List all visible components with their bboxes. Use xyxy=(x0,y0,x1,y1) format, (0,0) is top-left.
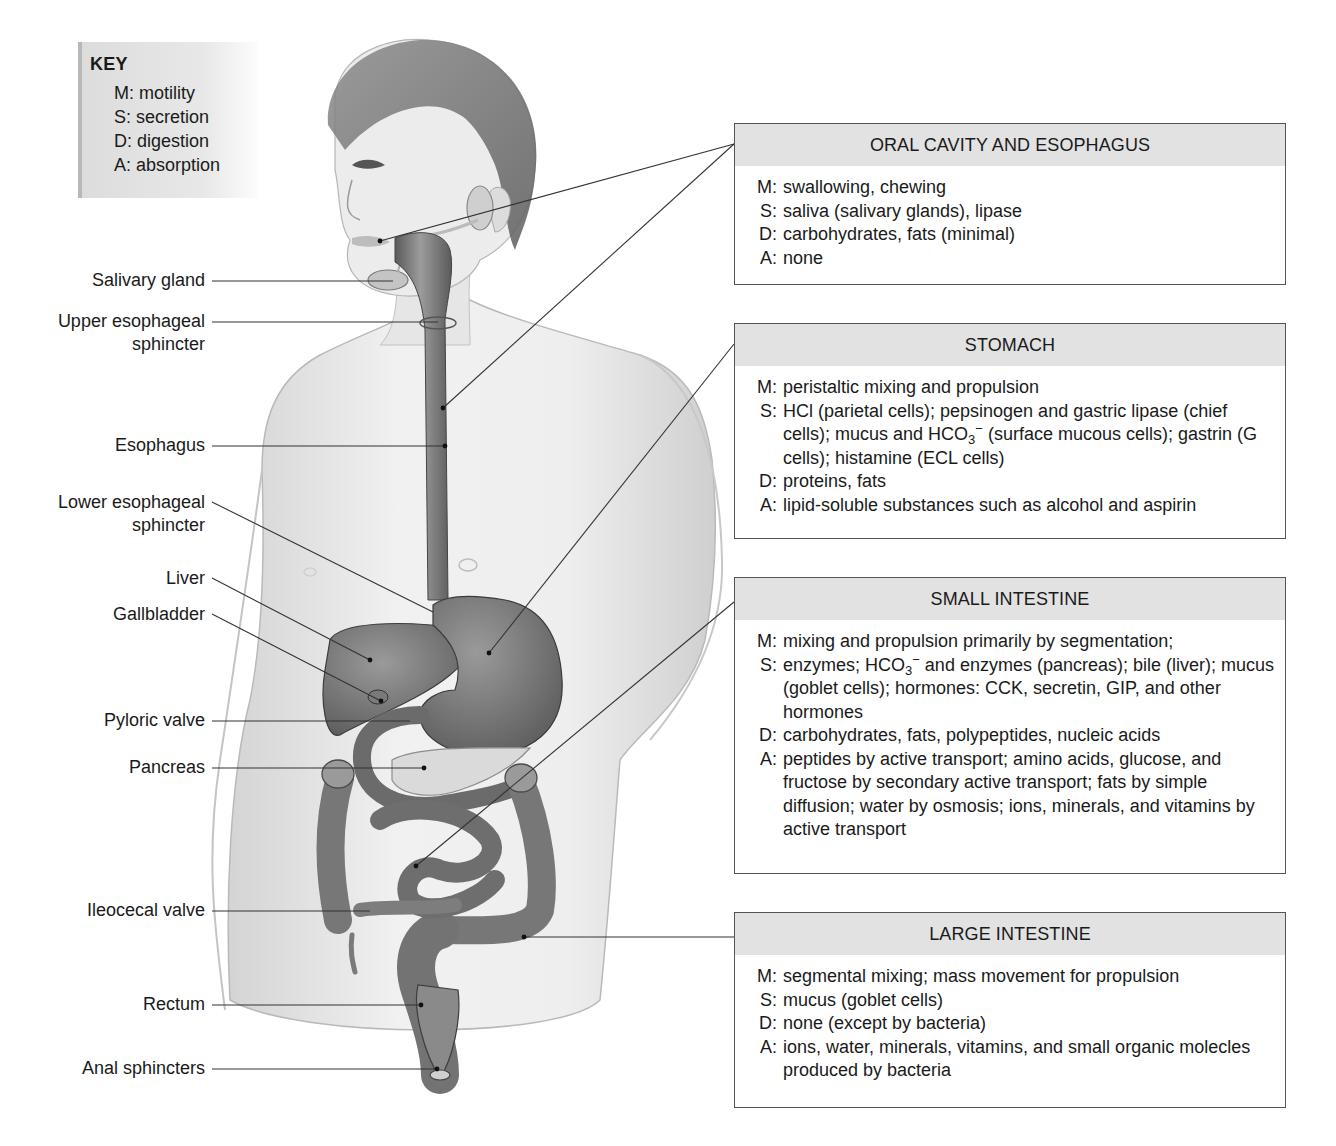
row-text: none (except by bacteria) xyxy=(783,1012,1285,1036)
row-secretion: S:HCl (parietal cells); pepsinogen and g… xyxy=(745,400,1285,471)
code-d: D: xyxy=(745,724,783,748)
code-d: D: xyxy=(745,1012,783,1036)
code-a: A: xyxy=(745,748,783,842)
row-digestion: D:carbohydrates, fats (minimal) xyxy=(745,223,1285,247)
row-motility: M:swallowing, chewing xyxy=(745,176,1285,200)
label-line: sphincter xyxy=(58,514,205,537)
box-stomach: STOMACH M:peristaltic mixing and propuls… xyxy=(734,323,1286,539)
box-title: LARGE INTESTINE xyxy=(735,913,1285,955)
label-pancreas: Pancreas xyxy=(129,756,205,779)
code-s: S: xyxy=(745,200,783,224)
row-text: proteins, fats xyxy=(783,470,1285,494)
row-motility: M:segmental mixing; mass movement for pr… xyxy=(745,965,1285,989)
label-anal-sphincters: Anal sphincters xyxy=(82,1057,205,1080)
row-digestion: D:carbohydrates, fats, polypeptides, nuc… xyxy=(745,724,1285,748)
row-absorption: A:peptides by active transport; amino ac… xyxy=(745,748,1285,842)
label-line: Upper esophageal xyxy=(58,310,205,333)
row-text: enzymes; HCO3− and enzymes (pancreas); b… xyxy=(783,654,1285,725)
code-s: S: xyxy=(745,989,783,1013)
box-title: SMALL INTESTINE xyxy=(735,578,1285,620)
row-digestion: D:none (except by bacteria) xyxy=(745,1012,1285,1036)
row-text: ions, water, minerals, vitamins, and sma… xyxy=(783,1036,1285,1083)
row-text: none xyxy=(783,247,1285,271)
key-item-secretion: S: secretion xyxy=(90,105,258,129)
key-item-digestion: D: digestion xyxy=(90,129,258,153)
box-large-intestine: LARGE INTESTINE M:segmental mixing; mass… xyxy=(734,912,1286,1108)
code-m: M: xyxy=(745,176,783,200)
label-esophagus: Esophagus xyxy=(115,434,205,457)
row-secretion: S:saliva (salivary glands), lipase xyxy=(745,200,1285,224)
label-rectum: Rectum xyxy=(143,993,205,1016)
key-legend: KEY M: motility S: secretion D: digestio… xyxy=(78,42,258,198)
key-item-absorption: A: absorption xyxy=(90,153,258,177)
row-text: mixing and propulsion primarily by segme… xyxy=(783,630,1285,654)
code-m: M: xyxy=(745,376,783,400)
key-item-motility: M: motility xyxy=(90,81,258,105)
row-text: carbohydrates, fats (minimal) xyxy=(783,223,1285,247)
row-absorption: A:ions, water, minerals, vitamins, and s… xyxy=(745,1036,1285,1083)
label-line: Lower esophageal xyxy=(58,491,205,514)
label-lower-esophageal-sphincter: Lower esophageal sphincter xyxy=(58,491,205,537)
row-secretion: S:mucus (goblet cells) xyxy=(745,989,1285,1013)
code-a: A: xyxy=(745,494,783,518)
code-s: S: xyxy=(745,654,783,725)
row-text: peptides by active transport; amino acid… xyxy=(783,748,1285,842)
row-digestion: D:proteins, fats xyxy=(745,470,1285,494)
row-absorption: A:none xyxy=(745,247,1285,271)
box-oral-cavity-esophagus: ORAL CAVITY AND ESOPHAGUS M:swallowing, … xyxy=(734,123,1286,285)
row-text: HCl (parietal cells); pepsinogen and gas… xyxy=(783,400,1285,471)
label-pyloric-valve: Pyloric valve xyxy=(104,709,205,732)
box-title: STOMACH xyxy=(735,324,1285,366)
row-text: swallowing, chewing xyxy=(783,176,1285,200)
box-title: ORAL CAVITY AND ESOPHAGUS xyxy=(735,124,1285,166)
label-gallbladder: Gallbladder xyxy=(113,603,205,626)
row-text: mucus (goblet cells) xyxy=(783,989,1285,1013)
label-line: sphincter xyxy=(58,333,205,356)
key-title: KEY xyxy=(90,54,258,75)
label-upper-esophageal-sphincter: Upper esophageal sphincter xyxy=(58,310,205,356)
code-a: A: xyxy=(745,1036,783,1083)
code-d: D: xyxy=(745,223,783,247)
box-small-intestine: SMALL INTESTINE M:mixing and propulsion … xyxy=(734,577,1286,874)
row-text: peristaltic mixing and propulsion xyxy=(783,376,1285,400)
code-a: A: xyxy=(745,247,783,271)
row-text: segmental mixing; mass movement for prop… xyxy=(783,965,1285,989)
code-d: D: xyxy=(745,470,783,494)
label-liver: Liver xyxy=(166,567,205,590)
row-absorption: A:lipid-soluble substances such as alcoh… xyxy=(745,494,1285,518)
label-salivary-gland: Salivary gland xyxy=(92,269,205,292)
label-ileocecal-valve: Ileocecal valve xyxy=(87,899,205,922)
code-m: M: xyxy=(745,965,783,989)
row-text: saliva (salivary glands), lipase xyxy=(783,200,1285,224)
row-secretion: S:enzymes; HCO3− and enzymes (pancreas);… xyxy=(745,654,1285,725)
row-motility: M:mixing and propulsion primarily by seg… xyxy=(745,630,1285,654)
row-text: lipid-soluble substances such as alcohol… xyxy=(783,494,1285,518)
row-motility: M:peristaltic mixing and propulsion xyxy=(745,376,1285,400)
row-text: carbohydrates, fats, polypeptides, nucle… xyxy=(783,724,1285,748)
code-m: M: xyxy=(745,630,783,654)
code-s: S: xyxy=(745,400,783,471)
